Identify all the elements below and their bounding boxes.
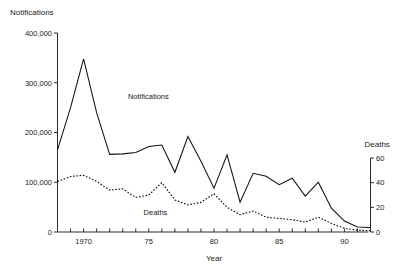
y-axis-tick-label: 0 [48, 228, 52, 237]
y-axis-tick-label: 100,000 [25, 178, 52, 187]
y2-axis-tick-label: 20 [376, 203, 384, 212]
line-chart: 0100,000200,000300,000400,00019707580859… [0, 0, 405, 273]
x-axis-title: Year [206, 254, 223, 263]
y-axis-tick-label: 400,000 [25, 29, 52, 38]
series-line-deaths [58, 175, 371, 231]
left-axis-title: Notifications [10, 8, 54, 17]
series-label-notifications: Notifications [128, 92, 169, 101]
x-axis-tick-label: 90 [340, 237, 348, 246]
y-axis-tick-label: 300,000 [25, 79, 52, 88]
series-label-deaths: Deaths [144, 208, 168, 217]
series-line-notifications [58, 59, 371, 228]
x-axis-tick-label: 80 [210, 237, 218, 246]
x-axis-tick-label: 1970 [75, 237, 92, 246]
x-axis-tick-label: 75 [145, 237, 153, 246]
y2-axis-tick-label: 40 [376, 178, 384, 187]
chart-container: 0100,000200,000300,000400,00019707580859… [0, 0, 405, 273]
y2-axis-tick-label: 60 [376, 154, 384, 163]
y2-axis-tick-label: 0 [376, 228, 380, 237]
right-axis-title: Deaths [365, 140, 390, 149]
x-axis-tick-label: 85 [275, 237, 283, 246]
left-and-bottom-axis-line [58, 33, 369, 232]
y-axis-tick-label: 200,000 [25, 128, 52, 137]
